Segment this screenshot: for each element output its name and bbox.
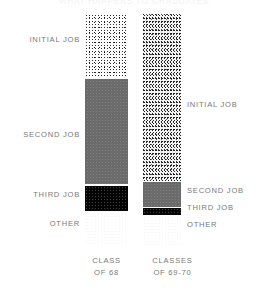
stacked-bar-chart: WHAT HAPPENS TO GRADUATES INITIAL JOB SE… <box>0 0 268 300</box>
bar-segment-other-left <box>85 212 128 245</box>
segment-label-initial-job-left: INITIAL JOB <box>29 36 80 44</box>
bar-segment-other-right <box>143 216 181 245</box>
segment-label-other-left: OTHER <box>50 220 80 228</box>
axis-caption-classes-of-69-70: CLASSES OF 69-70 <box>135 255 210 278</box>
segment-label-other-right: OTHER <box>187 221 217 229</box>
axis-caption-left-line2: OF 68 <box>74 267 139 279</box>
bar-segment-initial-job-left <box>85 14 128 77</box>
segment-label-initial-job-right: INITIAL JOB <box>187 101 238 109</box>
bar-segment-initial-job-right <box>143 14 181 181</box>
segment-label-third-job-right: THIRD JOB <box>187 204 234 212</box>
bar-segment-second-job-right <box>143 182 181 207</box>
segment-label-second-job-right: SECOND JOB <box>187 187 244 195</box>
segment-label-third-job-left: THIRD JOB <box>33 191 80 199</box>
segment-label-second-job-left: SECOND JOB <box>23 131 80 139</box>
axis-caption-left-line1: CLASS <box>92 256 121 265</box>
chart-title: WHAT HAPPENS TO GRADUATES <box>0 0 268 6</box>
bar-segment-third-job-left <box>85 186 128 211</box>
bar-classes-of-69-70 <box>143 14 181 245</box>
axis-caption-class-of-68: CLASS OF 68 <box>74 255 139 278</box>
bar-segment-third-job-right <box>143 208 181 215</box>
bar-class-of-68 <box>85 14 128 245</box>
axis-caption-right-line2: OF 69-70 <box>135 267 210 279</box>
bar-segment-second-job-left <box>85 79 128 184</box>
axis-caption-right-line1: CLASSES <box>152 256 192 265</box>
